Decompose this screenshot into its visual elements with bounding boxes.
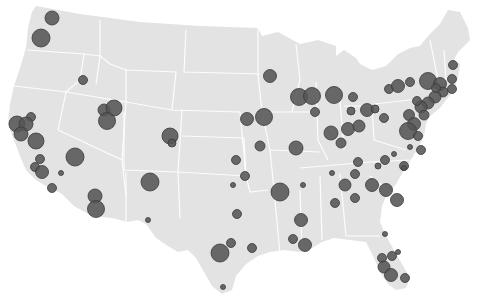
map-marker[interactable] [232,156,241,165]
map-marker[interactable] [339,179,351,191]
map-marker[interactable] [380,184,393,197]
map-marker[interactable] [326,87,343,104]
map-marker[interactable] [36,166,49,179]
map-marker[interactable] [391,194,404,207]
map-marker[interactable] [241,113,254,126]
map-marker[interactable] [330,171,335,176]
map-marker[interactable] [366,179,379,192]
map-marker[interactable] [271,183,289,201]
map-marker[interactable] [66,148,84,166]
map-marker[interactable] [336,138,346,148]
map-marker[interactable] [353,120,365,132]
map-marker[interactable] [413,97,422,106]
map-marker[interactable] [48,184,57,193]
map-marker[interactable] [301,183,306,188]
map-marker[interactable] [248,244,257,253]
map-marker[interactable] [227,239,236,248]
map-marker[interactable] [401,274,410,283]
map-marker[interactable] [406,78,415,87]
map-marker[interactable] [354,158,363,167]
map-marker[interactable] [380,114,389,123]
map-marker[interactable] [256,109,273,126]
map-marker[interactable] [45,11,59,25]
map-marker[interactable] [99,113,116,130]
map-marker[interactable] [289,235,298,244]
map-marker[interactable] [88,201,105,218]
map-marker[interactable] [375,163,381,169]
map-marker[interactable] [349,93,358,102]
map-marker[interactable] [289,141,303,155]
map-marker[interactable] [419,110,429,120]
map-marker[interactable] [14,127,28,141]
map-marker[interactable] [351,194,360,203]
map-marker[interactable] [414,132,423,141]
map-marker[interactable] [324,126,338,140]
map-marker[interactable] [168,139,176,147]
map-marker[interactable] [79,76,88,85]
map-marker[interactable] [402,166,407,171]
us-map-canvas [0,0,479,296]
map-marker[interactable] [141,173,159,191]
map-marker[interactable] [371,105,379,113]
map-marker[interactable] [417,146,426,155]
map-marker[interactable] [392,152,397,157]
map-marker[interactable] [383,232,388,237]
map-marker[interactable] [381,156,390,165]
us-map [0,0,479,296]
map-marker[interactable] [295,214,308,227]
map-marker[interactable] [241,172,250,181]
map-marker[interactable] [299,239,312,252]
map-marker[interactable] [311,108,320,117]
map-marker[interactable] [59,171,64,176]
map-marker[interactable] [32,29,50,47]
map-marker[interactable] [449,61,458,70]
map-marker[interactable] [392,80,405,93]
map-marker[interactable] [396,250,401,255]
map-marker[interactable] [211,244,229,262]
map-marker[interactable] [408,145,413,150]
map-marker[interactable] [221,285,226,290]
map-marker[interactable] [347,107,355,115]
map-marker[interactable] [304,88,321,105]
map-marker[interactable] [28,133,44,149]
map-marker[interactable] [231,183,236,188]
map-marker[interactable] [448,85,457,94]
map-marker[interactable] [448,75,457,84]
map-marker[interactable] [233,210,242,219]
map-marker[interactable] [388,252,397,261]
map-marker[interactable] [36,155,45,164]
map-marker[interactable] [351,170,360,179]
map-marker[interactable] [342,123,355,136]
map-marker[interactable] [432,84,441,93]
map-marker[interactable] [385,269,398,282]
map-marker[interactable] [264,70,277,83]
map-marker[interactable] [146,218,151,223]
map-marker[interactable] [255,141,265,151]
map-marker[interactable] [331,199,340,208]
